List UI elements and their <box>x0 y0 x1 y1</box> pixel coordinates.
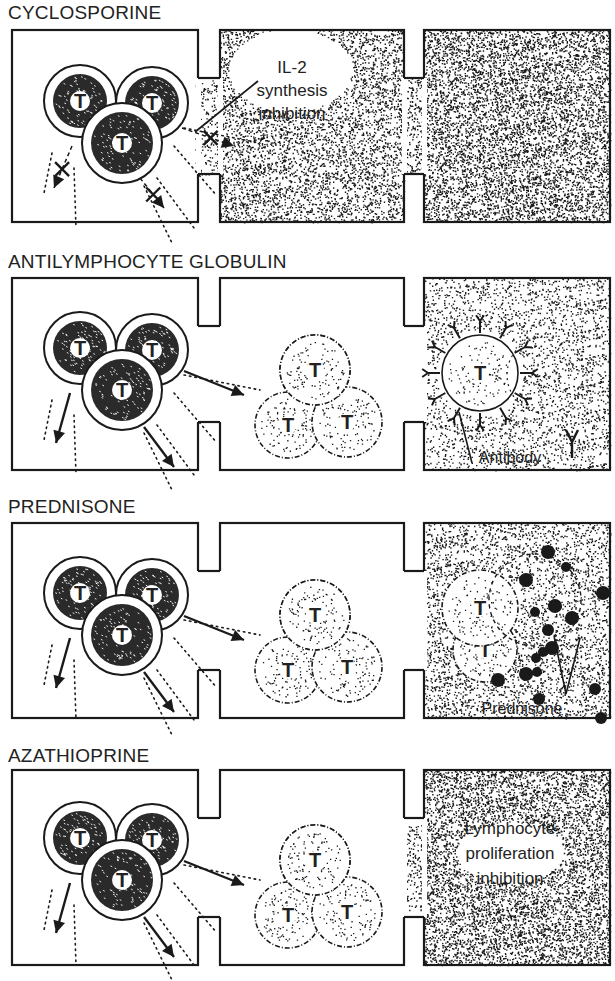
dotted-signal-line <box>174 883 217 933</box>
dotted-signal-line <box>174 146 217 196</box>
panel-gap <box>196 326 201 422</box>
panel-gap <box>218 571 223 670</box>
prednisone-molecule-icon <box>530 607 540 617</box>
signal-arrow <box>144 917 174 957</box>
cyclosporine-layer: TTTIL-2synthesisinhibition <box>12 30 611 243</box>
signal-arrow <box>184 371 244 396</box>
prednisone-diagram: TTTTTTTTTPrednisone <box>0 490 615 735</box>
dotted-signal-line <box>144 186 172 243</box>
activated-t-cell: T <box>82 350 162 430</box>
arrow-head <box>162 944 174 957</box>
dotted-signal-line <box>174 638 217 688</box>
cell-marker-label: T <box>116 869 128 891</box>
cyclosporine-diagram: TTTIL-2synthesisinhibition <box>0 0 615 245</box>
stipple-texture <box>424 30 611 223</box>
panel-gap <box>218 78 223 174</box>
panel-gap <box>402 326 407 422</box>
arrow-head <box>53 675 65 688</box>
resting-t-cell: T <box>280 580 350 650</box>
blocked-arrow <box>182 128 234 148</box>
annotation-label: inhibition <box>258 104 325 123</box>
annotation-label: Lymphocyte <box>464 819 555 838</box>
prednisone-molecule-icon <box>541 545 555 559</box>
annotation-label: inhibition <box>476 869 543 888</box>
prednisone-molecule-icon <box>561 562 571 572</box>
dotted-signal-line <box>74 168 76 228</box>
cell-marker-label: T <box>474 362 486 384</box>
cell-marker-label: T <box>74 337 86 359</box>
dotted-signal-line <box>44 645 52 685</box>
panel-gap <box>422 818 427 917</box>
cell-marker-label: T <box>341 901 353 923</box>
resting-t-cell: T <box>280 335 350 405</box>
annotation-label: Prednisone <box>482 700 563 717</box>
cell-marker-label: T <box>146 584 158 606</box>
cell-marker-label: T <box>309 604 321 626</box>
antilymphocyte-globulin-diagram: TTTTTTTTAntibody <box>0 245 615 490</box>
block-x-icon <box>55 162 69 176</box>
cell-marker-label: T <box>282 904 294 926</box>
prednisone-molecule-icon <box>519 667 533 681</box>
arrow-head <box>53 920 65 933</box>
arrow-head <box>162 699 174 712</box>
panel-gap <box>218 326 223 422</box>
azathioprine-layer: TTTTTTTLymphocyteproliferationinhibition <box>12 770 611 980</box>
signal-arrow <box>184 616 244 641</box>
cell-marker-label: T <box>74 827 86 849</box>
cell-marker-label: T <box>341 411 353 433</box>
cell-marker-label: T <box>474 597 486 619</box>
prednisone-molecule-icon <box>595 712 607 724</box>
row-prednisone: PREDNISONE TTTTTTTTTPrednisone <box>0 490 615 735</box>
cell-marker-label: T <box>146 92 158 114</box>
row-antilymphocyte-globulin: ANTILYMPHOCYTE GLOBULIN TTTTTTTTAntibody <box>0 245 615 490</box>
antibody-icon <box>448 408 460 425</box>
prednisone-molecule-icon <box>548 599 562 613</box>
cell-marker-label: T <box>116 379 128 401</box>
panel-gap <box>402 78 407 174</box>
cell-marker-label: T <box>282 414 294 436</box>
cell-marker-label: T <box>309 849 321 871</box>
cell-marker-label: T <box>146 339 158 361</box>
activated-t-cell: T <box>82 595 162 675</box>
panel-gap <box>196 78 201 174</box>
panel-gap <box>422 571 427 670</box>
annotation-label: synthesis <box>257 81 328 100</box>
panel-gap <box>218 818 223 917</box>
cell-marker-label: T <box>309 359 321 381</box>
panel-gap <box>402 818 407 917</box>
dotted-signal-line <box>44 153 52 193</box>
row-azathioprine: AZATHIOPRINE TTTTTTTLymphocyteproliferat… <box>0 735 615 981</box>
dotted-signal-line <box>74 415 76 475</box>
dotted-signal-line <box>174 393 217 443</box>
cell-marker-label: T <box>74 90 86 112</box>
prednisone-molecule-icon <box>542 624 554 636</box>
dotted-signal-line <box>44 890 52 930</box>
signal-arrow <box>53 393 70 443</box>
cell-marker-label: T <box>282 659 294 681</box>
signal-arrow <box>144 427 174 467</box>
antibody-icon <box>428 341 445 353</box>
prednisone-molecule-icon <box>532 667 542 677</box>
antibody-icon <box>476 413 484 431</box>
prednisone-molecule-icon <box>565 611 579 625</box>
prednisone-molecule-icon <box>491 673 505 687</box>
activated-t-cell: T <box>82 840 162 920</box>
antibody-icon <box>428 393 445 405</box>
panel-gap <box>422 78 427 174</box>
prednisone-layer: TTTTTTTTTPrednisone <box>12 523 611 735</box>
cell-marker-label: T <box>341 656 353 678</box>
resting-t-cell: T <box>442 570 518 646</box>
arrow-head <box>53 430 65 443</box>
prednisone-molecule-icon <box>596 586 610 600</box>
stipple-texture <box>220 30 405 223</box>
dotted-signal-line <box>74 905 76 965</box>
prednisone-molecule-icon <box>538 647 548 657</box>
blocked-arrow <box>53 146 72 188</box>
signal-arrow <box>53 638 70 688</box>
prednisone-molecule-icon <box>589 683 601 695</box>
cell-marker-label: T <box>116 132 128 154</box>
cell-marker-label: T <box>74 582 86 604</box>
signal-arrow <box>184 861 244 886</box>
antibody-icon <box>515 341 532 353</box>
annotation-label: Antibody <box>479 449 541 466</box>
